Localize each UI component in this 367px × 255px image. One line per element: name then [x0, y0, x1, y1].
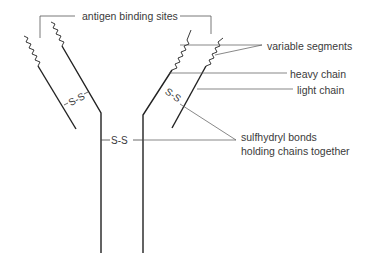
hinge-disulfide-bond: S-S — [101, 135, 143, 146]
svg-text:S-S: S-S — [163, 86, 183, 105]
sulfhydryl-bonds-label: sulfhydryl bonds — [241, 131, 317, 143]
right-arm-disulfide-bond: S-S — [163, 86, 183, 105]
svg-text:S-S: S-S — [67, 90, 87, 108]
left-arm-disulfide-bond: S-S — [64, 90, 88, 108]
holding-chains-together-label: holding chains together — [241, 145, 350, 157]
svg-text:S-S: S-S — [111, 135, 128, 146]
variable-segments-label: variable segments — [267, 40, 352, 52]
right-light-chain — [172, 38, 223, 128]
light-chain-label: light chain — [297, 84, 344, 96]
antibody-diagram: S-S S-S S-S — [0, 0, 367, 255]
left-heavy-chain — [51, 22, 101, 253]
heavy-chain-label: heavy chain — [290, 68, 346, 80]
right-heavy-chain — [143, 30, 191, 253]
left-light-chain — [24, 36, 76, 129]
antigen-binding-sites-label: antigen binding sites — [80, 10, 180, 22]
